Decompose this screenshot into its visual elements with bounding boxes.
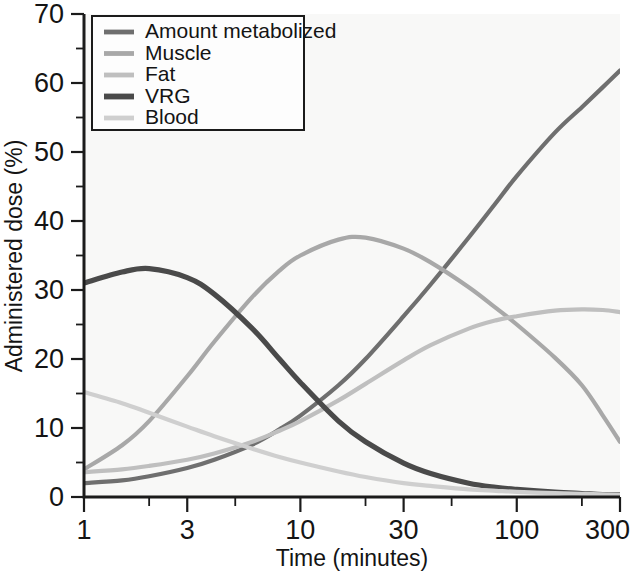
x-tick-label: 100 bbox=[494, 515, 539, 545]
legend-label-vrg: VRG bbox=[145, 84, 191, 107]
y-tick-label: 60 bbox=[34, 68, 64, 98]
legend-label-fat: Fat bbox=[145, 62, 176, 85]
legend-label-blood: Blood bbox=[145, 105, 199, 128]
chart-legend: Amount metabolizedMuscleFatVRGBlood bbox=[92, 16, 336, 130]
y-axis-label: Administered dose (%) bbox=[1, 140, 27, 373]
x-axis-label: Time (minutes) bbox=[276, 545, 429, 571]
y-tick-label: 0 bbox=[49, 482, 64, 512]
pharmacokinetic-line-chart: 010203040506070 131030100300 Time (minut… bbox=[0, 0, 632, 576]
y-tick-label: 70 bbox=[34, 0, 64, 29]
y-tick-label: 50 bbox=[34, 137, 64, 167]
y-tick-label: 40 bbox=[34, 206, 64, 236]
x-tick-label: 3 bbox=[180, 515, 195, 545]
x-tick-label: 10 bbox=[285, 515, 315, 545]
legend-label-muscle: Muscle bbox=[145, 41, 212, 64]
y-tick-label: 20 bbox=[34, 344, 64, 374]
y-tick-label: 30 bbox=[34, 275, 64, 305]
y-tick-label: 10 bbox=[34, 413, 64, 443]
chart-canvas: 010203040506070 131030100300 Time (minut… bbox=[0, 0, 632, 576]
x-tick-label: 300 bbox=[585, 515, 630, 545]
x-tick-label: 1 bbox=[76, 515, 91, 545]
x-tick-label: 30 bbox=[389, 515, 419, 545]
legend-label-amount-metabolized: Amount metabolized bbox=[145, 19, 336, 42]
